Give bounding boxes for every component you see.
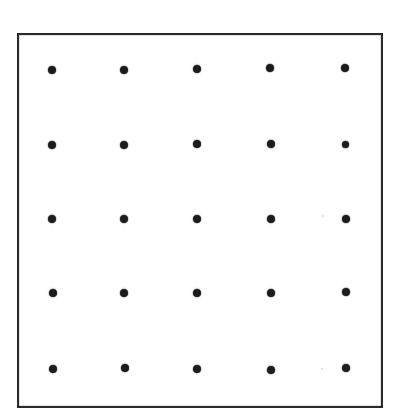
dot-marker — [49, 289, 57, 297]
dot-marker — [267, 366, 275, 374]
dot-marker — [342, 215, 350, 223]
plot-frame — [17, 33, 383, 408]
figure-canvas — [0, 0, 401, 419]
dot-marker — [342, 288, 350, 296]
dot-marker — [120, 215, 128, 223]
dot-marker — [267, 140, 275, 148]
dot-marker — [48, 141, 56, 149]
dot-marker — [120, 66, 128, 74]
dot-marker — [48, 66, 56, 74]
dot-marker — [120, 289, 128, 297]
dot-marker — [266, 64, 274, 72]
scan-speck-icon — [322, 215, 324, 217]
dot-marker — [267, 289, 275, 297]
dot-marker — [121, 364, 129, 372]
dot-marker — [193, 140, 201, 148]
dot-marker — [193, 365, 201, 373]
dot-grid — [19, 35, 381, 406]
dot-marker — [193, 289, 201, 297]
dot-marker — [49, 365, 57, 373]
scan-speck-icon — [321, 368, 323, 370]
dot-marker — [341, 64, 349, 72]
dot-marker — [342, 364, 350, 372]
dot-marker — [193, 215, 201, 223]
dot-marker — [193, 65, 201, 73]
dot-marker — [342, 141, 349, 148]
dot-marker — [267, 215, 275, 223]
dot-marker — [120, 141, 128, 149]
dot-marker — [48, 215, 56, 223]
